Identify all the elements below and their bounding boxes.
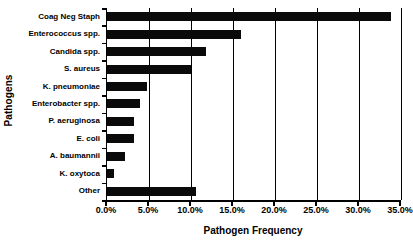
bar-slot bbox=[107, 130, 401, 147]
x-axis-tick-label: 15.0% bbox=[219, 206, 245, 215]
bar[interactable] bbox=[107, 187, 196, 196]
x-axis-tick-label: 25.0% bbox=[303, 206, 329, 215]
y-axis-title-text: Pathogens bbox=[3, 74, 14, 126]
y-axis-tick-labels: Coag Neg StaphEnterococcus spp.Candida s… bbox=[16, 8, 104, 200]
y-axis-tick-label: Other bbox=[16, 183, 104, 200]
x-axis-tick-label: 5.0% bbox=[138, 206, 159, 215]
bar[interactable] bbox=[107, 30, 241, 39]
bar[interactable] bbox=[107, 47, 206, 56]
y-axis-tick-label: E. coli bbox=[16, 130, 104, 147]
bar-slot bbox=[107, 183, 401, 200]
bar-slot bbox=[107, 8, 401, 25]
y-axis-tick-label: Enterobacter spp. bbox=[16, 95, 104, 112]
bar-slot bbox=[107, 78, 401, 95]
bar-slot bbox=[107, 60, 401, 77]
x-axis-tick-label: 30.0% bbox=[345, 206, 371, 215]
x-axis-tick-labels: 0.0%5.0%10.0%15.0%20.0%25.0%30.0%35.0% bbox=[106, 206, 400, 220]
bar[interactable] bbox=[107, 99, 140, 108]
bar[interactable] bbox=[107, 117, 134, 126]
x-axis-tick-label: 20.0% bbox=[261, 206, 287, 215]
y-axis-tick-label: S. aureus bbox=[16, 60, 104, 77]
bar[interactable] bbox=[107, 134, 134, 143]
y-axis-tick-label: K. oxytoca bbox=[16, 165, 104, 182]
y-axis-tick-label: P. aeruginosa bbox=[16, 113, 104, 130]
y-axis-tick-label: Enterococcus spp. bbox=[16, 25, 104, 42]
y-axis-tick-label: Coag Neg Staph bbox=[16, 8, 104, 25]
y-axis-title: Pathogens bbox=[0, 0, 16, 200]
y-axis-tick-label: K. pneumoniae bbox=[16, 78, 104, 95]
gridline bbox=[401, 8, 402, 200]
bar-slot bbox=[107, 95, 401, 112]
x-axis-tick-label: 0.0% bbox=[96, 206, 117, 215]
bar[interactable] bbox=[107, 65, 191, 74]
y-axis-tick-label: A. baumannii bbox=[16, 148, 104, 165]
y-axis-tick-label: Candida spp. bbox=[16, 43, 104, 60]
bar-slot bbox=[107, 25, 401, 42]
bar-slot bbox=[107, 165, 401, 182]
bar[interactable] bbox=[107, 82, 147, 91]
x-axis-tick-label: 10.0% bbox=[177, 206, 203, 215]
bar-slot bbox=[107, 148, 401, 165]
bar[interactable] bbox=[107, 169, 114, 178]
bar[interactable] bbox=[107, 152, 125, 161]
bar-slot bbox=[107, 113, 401, 130]
bar-slot bbox=[107, 43, 401, 60]
x-axis-tick-label: 35.0% bbox=[387, 206, 413, 215]
bar-series bbox=[107, 8, 401, 200]
plot-area bbox=[106, 8, 401, 200]
bar[interactable] bbox=[107, 12, 391, 21]
x-axis-title: Pathogen Frequency bbox=[106, 225, 400, 236]
